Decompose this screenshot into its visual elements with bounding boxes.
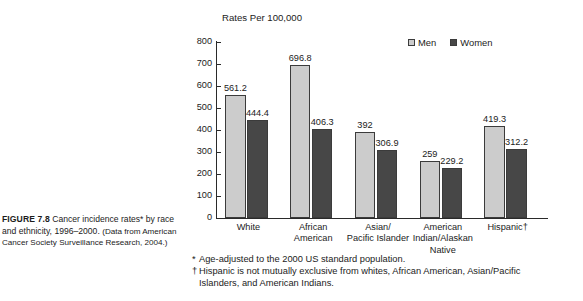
bar-value-label: 406.3 [306,118,338,127]
footnote-asterisk: *Age-adjusted to the 2000 US standard po… [192,254,572,266]
bar-women [312,129,333,218]
figure-number: FIGURE 7.8 [2,214,50,224]
legend-item-men: Men [408,37,436,48]
x-axis-category-line: Hispanic† [466,222,550,233]
footnote-dagger-text-line2: Islanders, and American Indians. [192,278,572,290]
bar-women [247,120,268,218]
bar-value-label: 312.2 [501,138,533,147]
y-axis-tick-label: 300 [188,147,212,156]
y-axis-tick-label: 400 [188,125,212,134]
bar-women [506,149,527,218]
y-axis-tick [217,64,221,65]
footnote-asterisk-text: Age-adjusted to the 2000 US standard pop… [199,254,405,264]
y-axis-tick [217,218,221,219]
bar-value-label: 419.3 [479,115,511,124]
y-axis-tick [217,42,221,43]
y-axis-tick-label: 100 [188,191,212,200]
legend-swatch-men-icon [408,39,415,46]
legend-swatch-women-icon [450,39,457,46]
footnote-dagger-mark: † [192,266,199,278]
y-axis-tick [217,196,221,197]
bar-value-label: 561.2 [219,84,251,93]
bar-women [377,150,398,218]
chart-footnotes: *Age-adjusted to the 2000 US standard po… [192,254,572,289]
bar-chart: Rates Per 100,000 Men Women 010020030040… [196,6,581,301]
legend-label-women: Women [460,37,492,48]
y-axis-tick [217,108,221,109]
footnote-dagger: †Hispanic is not mutually exclusive from… [192,266,572,290]
x-axis-category-line: Indian/Alaskan [401,233,485,244]
y-axis-tick [217,174,221,175]
y-axis-tick [217,152,221,153]
y-axis-tick-label: 700 [188,59,212,68]
footnote-asterisk-mark: * [192,254,199,266]
chart-legend: Men Women [408,37,492,48]
y-axis-tick-label: 600 [188,81,212,90]
footnote-dagger-text-line1: Hispanic is not mutually exclusive from … [199,266,520,276]
y-axis-tick-label: 200 [188,169,212,178]
bar-value-label: 444.4 [241,109,273,118]
bar-men [420,161,441,218]
figure-caption: FIGURE 7.8 Cancer incidence rates* by ra… [2,214,182,249]
chart-title: Rates Per 100,000 [222,12,302,23]
legend-label-men: Men [418,37,436,48]
bar-value-label: 392 [349,121,381,130]
x-axis-line [216,218,548,219]
bar-women [442,168,463,218]
y-axis-tick [217,130,221,131]
bar-value-label: 696.8 [284,54,316,63]
x-axis-category-label: Hispanic† [466,222,550,233]
bar-value-label: 306.9 [371,139,403,148]
y-axis-tick-label: 800 [188,37,212,46]
legend-item-women: Women [450,37,492,48]
y-axis-tick-label: 500 [188,103,212,112]
bar-men [290,65,311,218]
bar-value-label: 229.2 [436,157,468,166]
